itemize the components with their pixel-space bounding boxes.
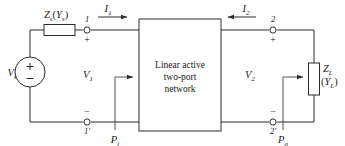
svg-text:Zs(Ys): Zs(Ys) (44, 9, 69, 23)
svg-text:two-port: two-port (164, 72, 197, 82)
terminal-node-2 (270, 27, 276, 33)
output-current-label: I2 (242, 3, 251, 17)
svg-text:Linear active: Linear active (155, 60, 205, 70)
svg-text:V2: V2 (245, 69, 255, 83)
svg-text:Pi: Pi (110, 134, 119, 146)
svg-text:Po: Po (277, 134, 288, 146)
svg-text:I2: I2 (242, 3, 251, 17)
svg-text:−: − (270, 106, 276, 117)
circuit-diagram-canvas: Zs(Ys) ZL (YL) Vs Linear active two-port… (0, 0, 345, 146)
svg-text:network: network (164, 84, 195, 94)
svg-text:ZL: ZL (323, 63, 333, 77)
svg-text:+: + (84, 34, 90, 45)
output-power-label: Po (277, 134, 288, 146)
output-voltage-label: V2 (245, 69, 255, 83)
load-impedance-symbol (309, 63, 320, 95)
voltage-source-symbol (15, 57, 45, 87)
terminal-node-1 (84, 27, 90, 33)
svg-text:1: 1 (85, 14, 89, 24)
source-impedance-label: Zs(Ys) (44, 9, 69, 23)
source-impedance-symbol (44, 25, 75, 36)
input-power-label: Pi (110, 134, 119, 146)
svg-text:2: 2 (271, 14, 276, 24)
input-current-label: I1 (104, 3, 112, 17)
svg-text:I1: I1 (104, 3, 112, 17)
svg-text:V1: V1 (83, 69, 93, 83)
schematic-svg: Zs(Ys) ZL (YL) Vs Linear active two-port… (0, 0, 345, 146)
terminal-node-2p (270, 119, 276, 125)
load-impedance-label: ZL (YL) (321, 63, 338, 90)
svg-text:−: − (84, 106, 90, 117)
svg-text:1′: 1′ (84, 126, 90, 136)
terminal-node-1p (84, 119, 90, 125)
svg-text:(YL): (YL) (321, 76, 338, 90)
svg-text:2′: 2′ (270, 126, 276, 136)
svg-text:+: + (270, 34, 276, 45)
input-voltage-label: V1 (83, 69, 93, 83)
